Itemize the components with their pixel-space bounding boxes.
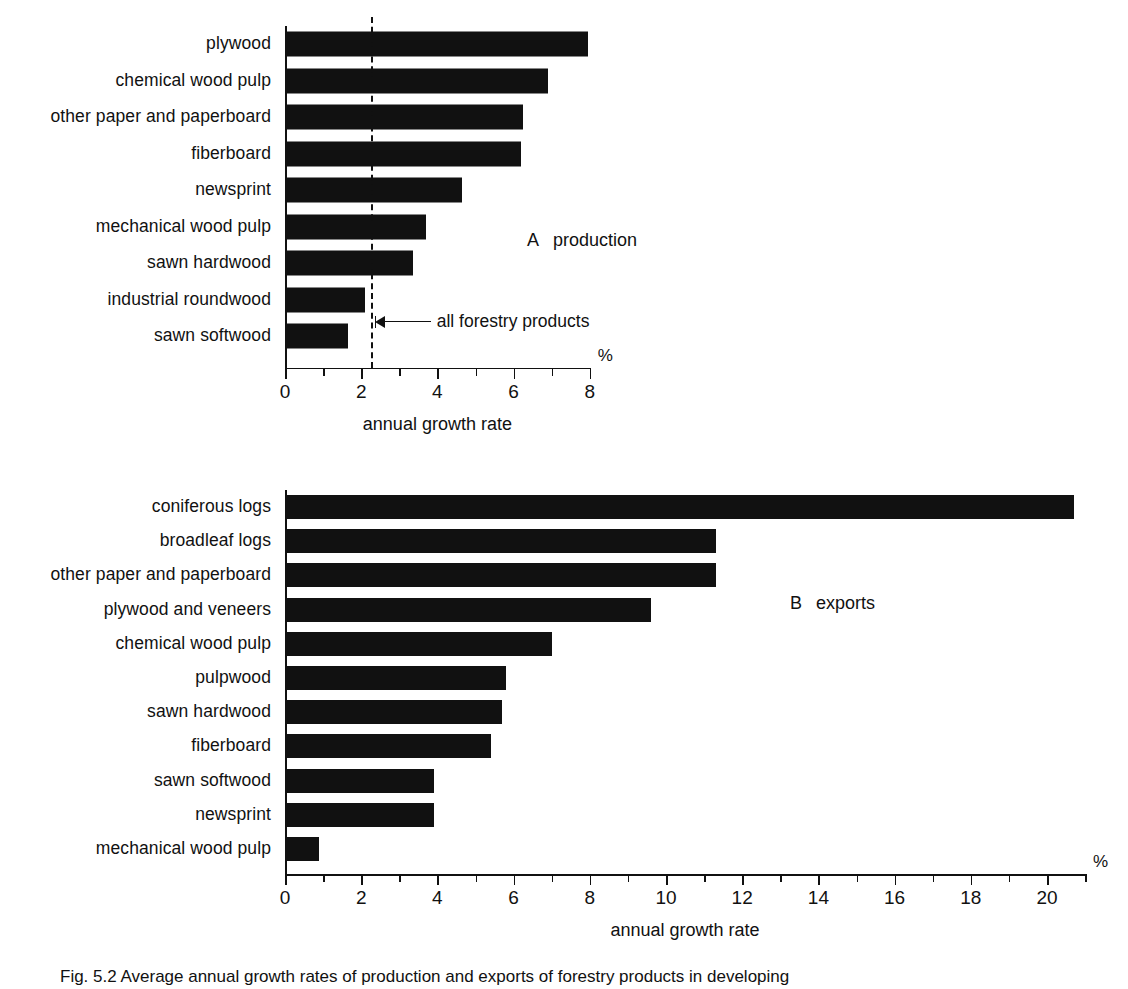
bar [285, 837, 319, 861]
bar-track [285, 764, 1128, 798]
bar-label-cell: chemical wood pulp [0, 63, 271, 100]
bar-track [285, 490, 1128, 524]
bar [285, 598, 651, 622]
bar-row: pulpwood [0, 661, 1128, 695]
axis-tick [1009, 874, 1011, 882]
reference-line-label: all forestry products [437, 311, 590, 332]
bars-group-exports: coniferous logsbroadleaf logsother paper… [0, 490, 1128, 866]
axis-tick-label: 0 [280, 382, 291, 401]
axis-tick [514, 874, 516, 885]
bar-label-cell: sawn hardwood [0, 245, 271, 282]
category-label: mechanical wood pulp [96, 218, 271, 236]
bar-track [285, 209, 1128, 246]
category-label: coniferous logs [152, 498, 271, 516]
axis-tick-label: 4 [432, 382, 443, 401]
bar-row: plywood [0, 26, 1128, 63]
axis-tick [857, 874, 859, 882]
axis-tick-label: 16 [884, 888, 905, 907]
x-axis-title-exports: annual growth rate [610, 920, 759, 941]
bar [285, 214, 426, 239]
bar-track [285, 798, 1128, 832]
category-label: sawn softwood [154, 328, 271, 346]
bar-track [285, 63, 1128, 100]
category-label: newsprint [195, 806, 271, 824]
axis-tick [399, 368, 401, 376]
axis-tick [323, 368, 325, 376]
panel-tag-a: Aproduction [527, 230, 637, 251]
axis-tick [933, 874, 935, 882]
axis-tick [1047, 874, 1049, 885]
bar-label-cell: chemical wood pulp [0, 627, 271, 661]
chart-panel-production: plywoodchemical wood pulpother paper and… [0, 26, 1128, 446]
bar-label-cell: pulpwood [0, 661, 271, 695]
axis-tick [590, 368, 592, 379]
category-label: plywood and veneers [104, 601, 271, 619]
axis-tick [628, 874, 630, 882]
bar [285, 251, 413, 276]
bars-group-production: plywoodchemical wood pulpother paper and… [0, 26, 1128, 355]
axis-tick-label: 0 [280, 888, 291, 907]
bar [285, 178, 462, 203]
bar-track [285, 99, 1128, 136]
panel-tag-b: Bexports [790, 593, 875, 614]
bar [285, 141, 521, 166]
axis-tick [742, 874, 744, 885]
axis-tick [361, 874, 363, 885]
bar-label-cell: industrial roundwood [0, 282, 271, 319]
axis-tick-label: 4 [432, 888, 443, 907]
bar-label-cell: sawn hardwood [0, 695, 271, 729]
axis-tick [818, 874, 820, 885]
bar [285, 495, 1074, 519]
axis-tick [476, 874, 478, 882]
axis-origin-rule [285, 490, 287, 874]
percent-unit-production: % [598, 346, 613, 366]
bar-track [285, 136, 1128, 173]
bar-track [285, 524, 1128, 558]
bar-label-cell: sawn softwood [0, 764, 271, 798]
category-label: mechanical wood pulp [96, 840, 271, 858]
bar [285, 700, 502, 724]
bar [285, 803, 434, 827]
bar-row: broadleaf logs [0, 524, 1128, 558]
bar-track [285, 627, 1128, 661]
arrow-left-icon [375, 316, 431, 328]
bar-row: newsprint [0, 798, 1128, 832]
reference-line-callout: all forestry products [375, 311, 590, 332]
bar-label-cell: mechanical wood pulp [0, 209, 271, 246]
bar-label-cell: plywood and veneers [0, 593, 271, 627]
axis-tick [552, 874, 554, 882]
axis-tick [895, 874, 897, 885]
figure-caption: Fig. 5.2 Average annual growth rates of … [60, 967, 1070, 987]
bar-row: fiberboard [0, 136, 1128, 173]
percent-unit-exports: % [1093, 852, 1108, 872]
category-label: chemical wood pulp [116, 635, 272, 653]
axis-origin-rule [285, 26, 287, 368]
bar-track [285, 661, 1128, 695]
reference-line-all-forestry-products [371, 17, 373, 368]
category-label: other paper and paperboard [50, 109, 271, 127]
x-axis-title-production: annual growth rate [363, 414, 512, 435]
bar [285, 769, 434, 793]
axis-tick [285, 874, 287, 885]
bar-label-cell: newsprint [0, 172, 271, 209]
axis-baseline [285, 874, 1085, 876]
bar-track [285, 695, 1128, 729]
bar-label-cell: coniferous logs [0, 490, 271, 524]
bar-label-cell: plywood [0, 26, 271, 63]
axis-tick [476, 368, 478, 376]
category-label: sawn hardwood [147, 703, 271, 721]
axis-tick [285, 368, 287, 379]
category-label: sawn softwood [154, 772, 271, 790]
panel-title-a: production [553, 230, 637, 250]
bar-track [285, 26, 1128, 63]
axis-tick-label: 10 [655, 888, 676, 907]
bar-row: chemical wood pulp [0, 63, 1128, 100]
bar [285, 734, 491, 758]
axis-tick-label: 14 [808, 888, 829, 907]
axis-tick [780, 874, 782, 882]
bar-track [285, 172, 1128, 209]
bar-row: sawn hardwood [0, 695, 1128, 729]
category-label: newsprint [195, 182, 271, 200]
bar-track [285, 558, 1128, 592]
bar-label-cell: newsprint [0, 798, 271, 832]
